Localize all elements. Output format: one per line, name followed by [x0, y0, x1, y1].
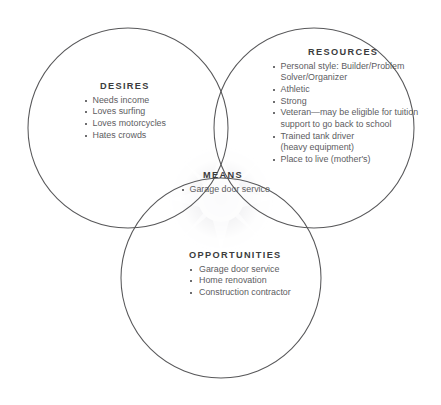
list-item: Trained tank driver (heavy equipment) [272, 131, 432, 154]
list-item: Personal style: Builder/Problem Solver/O… [272, 61, 432, 84]
group-means-list: Garage door service [181, 184, 270, 196]
group-means-heading: MEANS [181, 170, 270, 180]
group-means: MEANS Garage door service [181, 170, 270, 195]
group-desires: DESIRES Needs income Loves surfing Loves… [84, 81, 166, 141]
venn-diagram: DESIRES Needs income Loves surfing Loves… [0, 0, 441, 405]
list-item: Garage door service [181, 184, 270, 196]
group-opportunities-heading: OPPORTUNITIES [185, 250, 291, 260]
list-item: Strong [272, 96, 432, 108]
list-item: Home renovation [189, 275, 291, 287]
group-opportunities-list: Garage door service Home renovation Cons… [185, 264, 291, 299]
list-item: Loves motorcycles [84, 118, 166, 130]
list-item: Garage door service [189, 264, 291, 276]
list-item: Hates crowds [84, 130, 166, 142]
list-item: Construction contractor [189, 287, 291, 299]
group-resources-list: Personal style: Builder/Problem Solver/O… [272, 61, 432, 166]
list-item: Veteran—may be eligible for tuition supp… [272, 107, 432, 130]
group-desires-list: Needs income Loves surfing Loves motorcy… [84, 95, 166, 142]
group-resources: RESOURCES Personal style: Builder/Proble… [272, 47, 432, 166]
list-item: Loves surfing [84, 106, 166, 118]
list-item: Needs income [84, 95, 166, 107]
group-resources-heading: RESOURCES [272, 47, 432, 57]
list-item: Athletic [272, 84, 432, 96]
list-item: Place to live (mother's) [272, 154, 432, 166]
center-overlap-shading [169, 147, 273, 251]
group-opportunities: OPPORTUNITIES Garage door service Home r… [185, 250, 291, 299]
group-desires-heading: DESIRES [84, 81, 166, 91]
